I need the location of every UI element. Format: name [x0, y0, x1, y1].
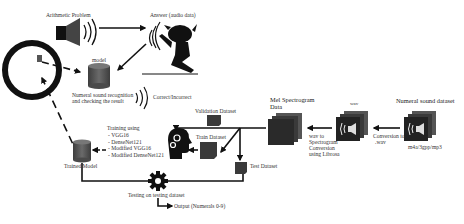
wav-to-spectrogram-line4: using Librosa [309, 151, 340, 157]
mel-spectrogram-stack-icon [268, 113, 302, 145]
training-model-item: VGG16 [108, 132, 164, 139]
model-label: model [92, 57, 106, 63]
arrow-gear-to-output [158, 198, 172, 206]
recognition-label-line2: and checking the result [72, 98, 124, 104]
validation-dataset-label: Validation Dataset [195, 108, 236, 114]
sound-waves-icon [136, 87, 148, 109]
output-label: Output (Numerals 0-9) [174, 203, 225, 209]
model-cylinder-icon [88, 63, 110, 89]
training-models-list: VGG16 DenseNet121 Modified VGG16 Modifie… [108, 132, 164, 158]
trained-model-cylinder-icon [73, 140, 91, 163]
arrow-data-to-head [176, 128, 266, 130]
arrow-trained-to-device [42, 78, 78, 155]
answer-label: Answer (audio data) [150, 12, 196, 18]
arrow-test-to-gear [168, 174, 243, 181]
speaking-person-icon [142, 22, 198, 74]
numeral-dataset-stack-icon [404, 111, 436, 141]
train-dataset-label: Train Dataset [196, 134, 226, 140]
test-dataset-icon [235, 162, 247, 174]
training-model-item: Modified DenseNet121 [108, 152, 164, 159]
numeral-dataset-label: Numeral sound dataset [396, 97, 455, 104]
training-model-item: DenseNet121 [108, 139, 164, 146]
wav-label: wav [350, 101, 358, 107]
arithmetic-problem-label: Arithmetic Problem [46, 12, 91, 18]
arrow-answer-to-model [118, 44, 146, 70]
head-gears-icon [168, 128, 192, 159]
wav-stack-icon [336, 111, 368, 141]
training-title: Training using [107, 125, 140, 131]
test-dataset-label: Test Dataset [250, 163, 277, 169]
speaker-icon [56, 18, 96, 46]
validation-dataset-icon [207, 115, 221, 126]
testing-label: Testing on testing dataset [128, 192, 185, 198]
trained-model-label: Trained Model [64, 163, 97, 169]
conversion-wav-line2: .wav [375, 139, 386, 145]
gear-icon [148, 171, 168, 191]
train-dataset-icon [200, 142, 217, 159]
round-device-icon [5, 43, 59, 97]
numeral-dataset-format: m4a/3gpp/mp3 [408, 144, 442, 150]
training-model-item: Modified VGG16 [108, 145, 164, 152]
mel-spectrogram-label-line1: Mel Spectrogram [270, 96, 315, 103]
mel-spectrogram-label-line2: Data [270, 103, 282, 110]
result-label: Correct/Incorrect [153, 94, 192, 100]
